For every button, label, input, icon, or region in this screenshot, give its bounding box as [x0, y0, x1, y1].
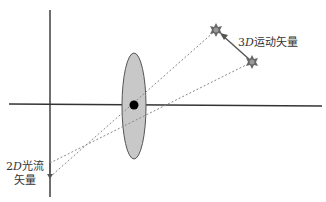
flow-2d-label: 2D光流矢量: [6, 160, 44, 188]
motion-3d-label: 3D运动矢量: [238, 36, 298, 50]
optical-diagram: [0, 0, 326, 202]
star-point-1-icon: [210, 23, 222, 37]
projection-ray-2: [50, 62, 252, 163]
lens-center: [130, 101, 139, 110]
flow-arrowhead-icon: [47, 174, 53, 179]
